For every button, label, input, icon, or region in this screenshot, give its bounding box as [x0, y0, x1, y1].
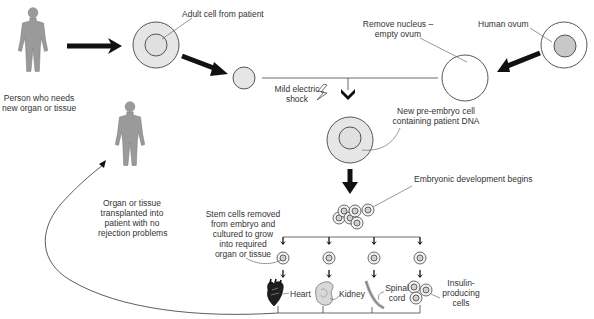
empty-ovum-icon [420, 38, 488, 101]
spinal-cord-icon [366, 281, 384, 308]
label-line: Spinal [383, 283, 411, 293]
label-line: cord [383, 293, 411, 303]
label-line: Mild electric [274, 84, 320, 94]
label-line: Insulin- [442, 278, 480, 288]
label-line: shock [274, 94, 320, 104]
label-new-pre-embryo: New pre-embryo cell containing patient D… [382, 106, 490, 126]
label-line: new organ or tissue [2, 103, 76, 113]
label-stem-cells: Stem cells removed from embryo and cultu… [205, 209, 281, 259]
cloning-diagram: Person who needs new organ or tissue Adu… [0, 0, 594, 319]
label-line: Person who needs [2, 93, 76, 103]
kidney-icon [316, 282, 340, 305]
label-remove-nucleus: Remove nucleus – empty ovum [358, 19, 438, 39]
label-mild-shock: Mild electric shock [274, 84, 320, 104]
label-adult-cell: Adult cell from patient [182, 9, 264, 19]
diagram-graphics [0, 0, 594, 319]
label-line: from embryo and [205, 219, 281, 229]
label-line: into required [205, 239, 281, 249]
branch-arrows [280, 237, 423, 245]
label-line: producing [442, 288, 480, 298]
label-line: empty ovum [358, 29, 438, 39]
label-line: cultured to grow [205, 229, 281, 239]
embryo-cluster-icon [333, 186, 412, 229]
branch-arrows-lower [280, 270, 423, 278]
label-line: rejection problems [98, 228, 166, 238]
label-line: transplanted into [98, 208, 166, 218]
label-transplanted: Organ or tissue transplanted into patien… [98, 198, 166, 238]
arrow-icon [182, 56, 228, 76]
label-line: cells [442, 298, 480, 308]
label-line: Organ or tissue [98, 198, 166, 208]
person-figure-icon [18, 7, 47, 71]
chevron-down-icon [341, 89, 355, 100]
transplanted-person-icon [115, 101, 144, 165]
nucleus-cell-icon [233, 67, 255, 89]
label-line: New pre-embryo cell [382, 106, 490, 116]
label-spinal-cord: Spinal cord [383, 283, 411, 303]
label-person-needs: Person who needs new organ or tissue [2, 93, 76, 113]
insulin-cells-icon [408, 281, 440, 304]
label-insulin-cells: Insulin- producing cells [442, 278, 480, 308]
arrow-icon [67, 38, 122, 54]
label-human-ovum: Human ovum [478, 19, 529, 29]
label-line: Stem cells removed [205, 209, 281, 219]
heart-icon [267, 279, 289, 306]
arrow-icon [342, 169, 358, 194]
human-ovum-icon [530, 22, 587, 68]
arrow-icon [497, 53, 540, 72]
label-kidney: Kidney [339, 289, 365, 299]
label-line: organ or tissue [205, 249, 281, 259]
label-embryonic-development: Embryonic development begins [414, 174, 533, 184]
label-line: containing patient DNA [382, 116, 490, 126]
label-heart: Heart [290, 289, 311, 299]
adult-cell-icon [133, 18, 192, 68]
label-line: Remove nucleus – [358, 19, 438, 29]
label-line: patient with no [98, 218, 166, 228]
